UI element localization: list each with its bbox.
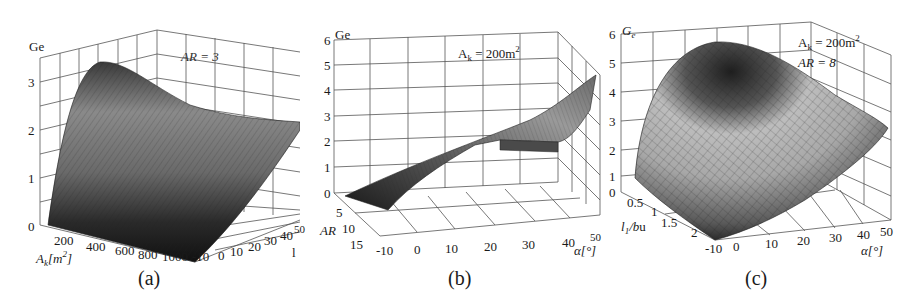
annotation-b: Ak = 200m2 bbox=[458, 45, 520, 63]
ytick-c-0.5: 0.5 bbox=[627, 196, 643, 209]
caption-a: (a) bbox=[138, 268, 160, 288]
ztick-c-3: 3 bbox=[609, 115, 616, 128]
ztick-b-5: 5 bbox=[324, 59, 331, 72]
xlabel-c: α[°] bbox=[861, 244, 883, 257]
ytick-a-m10: -10 bbox=[192, 250, 209, 263]
caption-c: (c) bbox=[745, 268, 767, 288]
ytick-c-1: 1 bbox=[651, 205, 658, 218]
ylabel-a: l bbox=[292, 246, 296, 259]
ztick-a-1: 1 bbox=[28, 172, 35, 185]
ztick-c-0: 0 bbox=[609, 186, 616, 199]
ztick-c-6: 6 bbox=[609, 28, 616, 41]
panel-c: 6 Ge 5 4 3 2 1 0 Ak = 200m2 AR = 8 0.5 1… bbox=[605, 0, 911, 302]
ztick-c-2: 2 bbox=[609, 144, 616, 157]
ztick-a-0: 0 bbox=[28, 220, 35, 233]
xtick-b-20: 20 bbox=[484, 240, 497, 253]
xtick-a-200: 200 bbox=[54, 234, 74, 247]
ztick-a-3: 3 bbox=[28, 76, 35, 89]
ztick-b-0: 0 bbox=[324, 187, 331, 200]
ytick-b-15: 15 bbox=[350, 238, 363, 251]
annotation-c-ar: AR = 8 bbox=[798, 56, 836, 69]
ytick-a-10: 10 bbox=[230, 245, 243, 258]
annotation-a: AR = 3 bbox=[181, 50, 219, 63]
ytick-a-0: 0 bbox=[218, 249, 225, 262]
xtick-c-m10: -10 bbox=[705, 242, 722, 255]
xtick-c-40: 40 bbox=[857, 228, 870, 241]
xtick-c-50: 50 bbox=[880, 225, 893, 238]
ytick-a-30: 30 bbox=[264, 234, 277, 247]
ytick-c-2: 2 bbox=[691, 226, 698, 239]
ytick-b-10: 10 bbox=[342, 222, 355, 235]
ytick-b-5: 5 bbox=[336, 206, 343, 219]
xtick-c-30: 30 bbox=[829, 231, 842, 244]
ylabel-b: AR bbox=[320, 224, 336, 237]
xtick-a-600: 600 bbox=[115, 244, 135, 257]
ytick-a-20: 20 bbox=[248, 240, 261, 253]
ztick-b-2: 2 bbox=[324, 135, 331, 148]
panel-a: Ge AR = 3 3 2 1 0 200 400 600 800 1000 -… bbox=[0, 0, 300, 302]
ytick-c-1.5: 1.5 bbox=[661, 216, 677, 229]
xtick-a-400: 400 bbox=[86, 240, 106, 253]
ztick-b-3: 3 bbox=[324, 110, 331, 123]
zlabel-a: Ge bbox=[29, 40, 44, 53]
xtick-c-0: 0 bbox=[733, 240, 740, 253]
xtick-c-10: 10 bbox=[765, 237, 778, 250]
ztick-c-4: 4 bbox=[609, 86, 616, 99]
xtick-b-m10: -10 bbox=[376, 244, 393, 257]
ztick-c-1: 1 bbox=[609, 170, 616, 183]
ztick-c-5: 5 bbox=[609, 57, 616, 70]
caption-b: (b) bbox=[448, 268, 471, 288]
xtick-b-50: 50 bbox=[590, 232, 601, 243]
zlabel-b: Ge bbox=[335, 28, 350, 41]
ztick-a-2: 2 bbox=[28, 124, 35, 137]
xtick-a-800: 800 bbox=[138, 248, 158, 261]
xtick-a-1000: 1000 bbox=[162, 250, 188, 263]
ztick-b-1: 1 bbox=[324, 161, 331, 174]
xlabel-a: Ak[m2] bbox=[36, 250, 72, 268]
xtick-c-20: 20 bbox=[797, 234, 810, 247]
xtick-b-10: 10 bbox=[445, 242, 458, 255]
annotation-c-area: Ak = 200m2 bbox=[798, 34, 860, 52]
ztick-b-4: 4 bbox=[324, 84, 331, 97]
panel-b: 6 Ge 5 4 3 2 1 0 Ak = 200m2 5 10 15 AR -… bbox=[300, 0, 605, 302]
xtick-b-30: 30 bbox=[522, 238, 535, 251]
ytick-a-40: 40 bbox=[280, 229, 293, 242]
zlabel-c: Ge bbox=[622, 24, 635, 40]
surface-plot-b bbox=[300, 0, 605, 302]
xtick-b-0: 0 bbox=[414, 243, 421, 256]
ztick-b-6: 6 bbox=[324, 34, 331, 47]
ylabel-c: l1/bu bbox=[621, 220, 646, 236]
xlabel-b: α[°] bbox=[574, 244, 596, 257]
